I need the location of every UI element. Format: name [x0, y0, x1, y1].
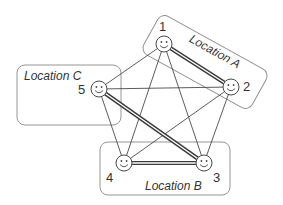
smiley-face-icon — [156, 36, 172, 52]
edge-2-5 — [99, 87, 231, 89]
node-3 — [196, 155, 212, 171]
smiley-face-icon — [116, 155, 132, 171]
location-c-label: Location C — [24, 69, 82, 83]
double-edges — [99, 44, 231, 163]
edge-1-3 — [164, 44, 204, 163]
edge-1-5 — [99, 44, 164, 89]
smiley-face-icon — [196, 155, 212, 171]
node-3-label: 3 — [213, 170, 220, 185]
node-5 — [91, 81, 107, 97]
node-5-label: 5 — [78, 82, 85, 97]
edge-2-3 — [204, 87, 231, 163]
node-2 — [223, 79, 239, 95]
node-4 — [116, 155, 132, 171]
smiley-face-icon — [91, 81, 107, 97]
node-4-label: 4 — [106, 170, 113, 185]
location-b-label: Location B — [145, 179, 202, 193]
smiley-face-icon — [223, 79, 239, 95]
node-1 — [156, 36, 172, 52]
node-2-label: 2 — [243, 79, 250, 94]
edge-1-4 — [124, 44, 164, 163]
node-1-label: 1 — [159, 19, 166, 34]
edge-2-4 — [124, 87, 231, 163]
network-diagram: Location A Location C Location B — [0, 0, 283, 205]
